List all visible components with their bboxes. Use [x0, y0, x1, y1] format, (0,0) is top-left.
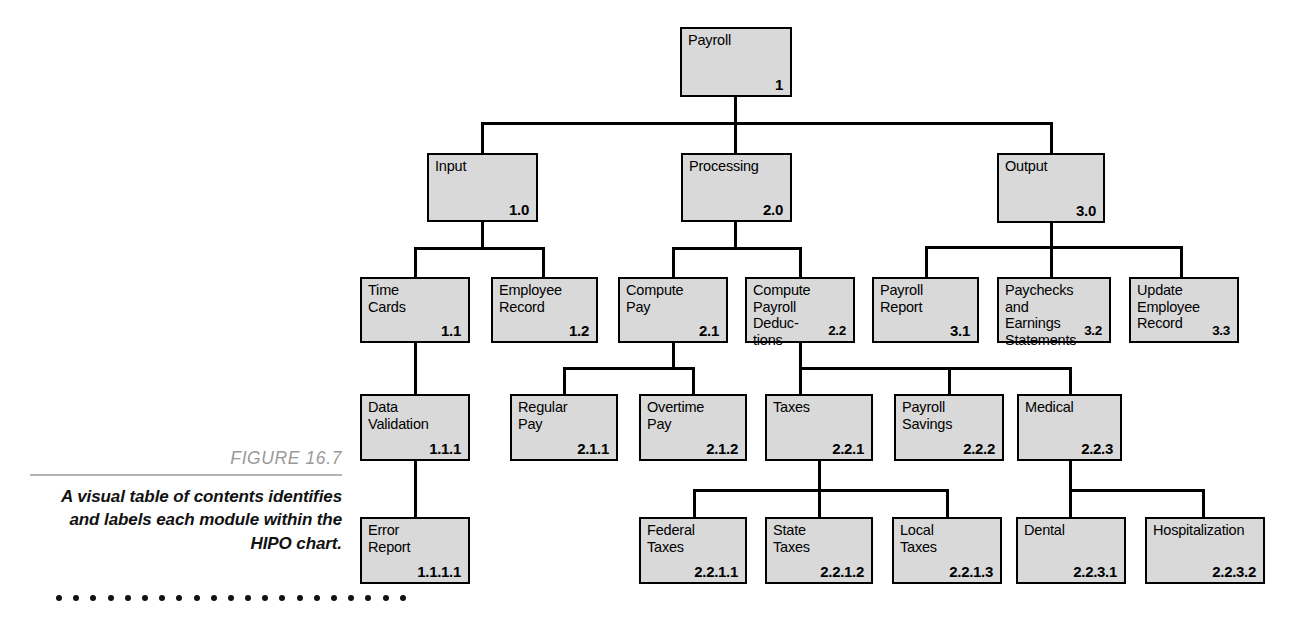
node-update-employee-record[interactable]: Update Employee Record 3.3: [1129, 277, 1239, 343]
node-number: 2.2.3.2: [1212, 563, 1256, 580]
node-number: 2.2.2: [963, 440, 995, 457]
decorative-dot-row: [56, 595, 406, 601]
decorative-dot: [228, 595, 234, 601]
node-time-cards[interactable]: Time Cards 1.1: [360, 277, 470, 343]
decorative-dot: [159, 595, 165, 601]
node-label: Payroll Report: [880, 282, 973, 315]
node-state-taxes[interactable]: State Taxes 2.2.1.2: [765, 517, 873, 584]
node-label: Payroll Savings: [902, 399, 998, 432]
node-number: 3.3: [1212, 323, 1230, 338]
node-number: 2.2.3.1: [1073, 563, 1117, 580]
node-processing[interactable]: Processing 2.0: [681, 153, 792, 222]
decorative-dot: [262, 595, 268, 601]
node-input[interactable]: Input 1.0: [427, 153, 538, 222]
node-hospitalization[interactable]: Hospitalization 2.2.3.2: [1145, 517, 1265, 584]
node-number: 2.2.3: [1081, 440, 1113, 457]
connector-payroll-stem: [734, 96, 737, 124]
node-number: 2.2: [828, 323, 846, 338]
connector-level1-bus: [481, 122, 1053, 125]
connector-hospitalization-drop: [1202, 489, 1205, 517]
connector-updateemployee-drop: [1180, 246, 1183, 278]
connector-output-drop: [1050, 122, 1053, 154]
node-overtime-pay[interactable]: Overtime Pay 2.1.2: [639, 394, 747, 461]
node-label: Error Report: [368, 522, 464, 555]
decorative-dot: [176, 595, 182, 601]
node-label: Data Validation: [368, 399, 464, 432]
connector-overtimepay-drop: [692, 367, 695, 395]
node-label: Hospitalization: [1153, 522, 1259, 539]
node-number: 1.0: [509, 201, 529, 218]
connector-paychecks-drop: [1050, 246, 1053, 278]
figure-number: FIGURE 16.7: [30, 448, 342, 474]
node-label: Employee Record: [499, 282, 592, 315]
node-number: 3.1: [950, 322, 970, 339]
caption-divider: [30, 474, 342, 476]
connector-deductions-bus: [799, 367, 1072, 370]
node-label: Compute Payroll Deduc- tions: [753, 282, 849, 348]
node-number: 2.2.1.2: [820, 563, 864, 580]
decorative-dot: [125, 595, 131, 601]
node-label: Paychecks and Earnings Statements: [1005, 282, 1105, 348]
node-number: 1.2: [569, 322, 589, 339]
node-label: Medical: [1025, 399, 1116, 416]
node-federal-taxes[interactable]: Federal Taxes 2.2.1.1: [639, 517, 747, 584]
node-regular-pay[interactable]: Regular Pay 2.1.1: [510, 394, 618, 461]
connector-employeerecord-drop: [542, 247, 545, 278]
node-label: Input: [435, 158, 532, 175]
connector-taxes-bus: [693, 489, 948, 492]
node-compute-payroll-deductions[interactable]: Compute Payroll Deduc- tions 2.2: [745, 277, 855, 343]
node-employee-record[interactable]: Employee Record 1.2: [491, 277, 598, 343]
node-label: Output: [1005, 158, 1099, 175]
decorative-dot: [400, 595, 406, 601]
decorative-dot: [211, 595, 217, 601]
node-paychecks-and-earnings-statements[interactable]: Paychecks and Earnings Statements 3.2: [997, 277, 1111, 343]
connector-input-drop: [481, 122, 484, 154]
node-number: 1.1.1.1: [417, 563, 461, 580]
connector-output-stem: [1050, 222, 1053, 248]
node-data-validation[interactable]: Data Validation 1.1.1: [360, 394, 470, 461]
connector-medical-drop: [1069, 367, 1072, 395]
connector-medical-bus: [1069, 489, 1205, 492]
connector-output-bus: [925, 246, 1183, 249]
hipo-chart-figure: Payroll 1 Input 1.0 Processing 2.0 Outpu…: [0, 0, 1312, 627]
node-number: 2.1: [699, 322, 719, 339]
node-number: 3.2: [1084, 323, 1102, 338]
connector-processing-drop: [734, 122, 737, 154]
node-number: 1.1.1: [429, 440, 461, 457]
node-payroll-savings[interactable]: Payroll Savings 2.2.2: [894, 394, 1004, 461]
connector-computepay-drop: [672, 247, 675, 278]
node-label: Dental: [1024, 522, 1120, 539]
decorative-dot: [90, 595, 96, 601]
node-taxes[interactable]: Taxes 2.2.1: [765, 394, 873, 461]
node-dental[interactable]: Dental 2.2.3.1: [1016, 517, 1126, 584]
node-number: 2.1.1: [577, 440, 609, 457]
connector-localtaxes-drop: [946, 489, 949, 517]
decorative-dot: [73, 595, 79, 601]
node-compute-pay[interactable]: Compute Pay 2.1: [618, 277, 728, 343]
node-number: 2.1.2: [706, 440, 738, 457]
connector-processing-stem: [734, 221, 737, 249]
node-label: Time Cards: [368, 282, 464, 315]
decorative-dot: [142, 595, 148, 601]
decorative-dot: [245, 595, 251, 601]
connector-processing-bus: [672, 247, 802, 250]
node-number: 1: [775, 76, 783, 93]
node-number: 2.2.1: [832, 440, 864, 457]
node-local-taxes[interactable]: Local Taxes 2.2.1.3: [892, 517, 1002, 584]
node-label: Federal Taxes: [647, 522, 741, 555]
node-payroll-report[interactable]: Payroll Report 3.1: [872, 277, 979, 343]
node-error-report[interactable]: Error Report 1.1.1.1: [360, 517, 470, 584]
connector-input-bus: [414, 247, 545, 250]
connector-timecards-to-datavalidation: [414, 342, 417, 395]
decorative-dot: [348, 595, 354, 601]
connector-computepay-stem: [672, 342, 675, 369]
figure-caption-text: A visual table of contents identifies an…: [30, 485, 342, 556]
node-number: 2.2.1.3: [949, 563, 993, 580]
decorative-dot: [365, 595, 371, 601]
node-output[interactable]: Output 3.0: [997, 153, 1105, 223]
node-label: Compute Pay: [626, 282, 722, 315]
node-payroll[interactable]: Payroll 1: [680, 27, 792, 97]
node-label: Payroll: [688, 32, 786, 49]
node-medical[interactable]: Medical 2.2.3: [1017, 394, 1122, 461]
node-label: Regular Pay: [518, 399, 612, 432]
